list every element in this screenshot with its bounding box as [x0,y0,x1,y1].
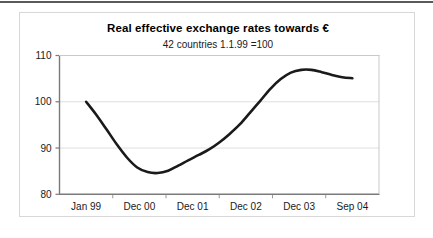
x-axis-label: Dec 01 [177,201,209,212]
y-axis-label: 80 [40,189,52,200]
y-axis-tick-labels: 8090100110 [35,50,52,200]
top-divider-rule [0,1,433,3]
chart-figure-container: Real effective exchange rates towards € … [19,12,415,217]
data-series-line [86,70,352,174]
x-axis-label: Jan 99 [71,201,101,212]
x-axis-label: Dec 00 [124,201,156,212]
x-axis-label: Dec 02 [230,201,262,212]
y-axis-label: 110 [36,50,52,61]
y-axis-label: 100 [35,96,52,107]
line-chart-plot: 8090100110 Jan 99Dec 00Dec 01Dec 02Dec 0… [20,13,416,218]
x-axis-label: Sep 04 [337,201,369,212]
x-axis-label: Dec 03 [283,201,315,212]
y-axis-label: 90 [40,143,52,154]
x-axis-tick-labels: Jan 99Dec 00Dec 01Dec 02Dec 03Sep 04 [71,201,369,212]
